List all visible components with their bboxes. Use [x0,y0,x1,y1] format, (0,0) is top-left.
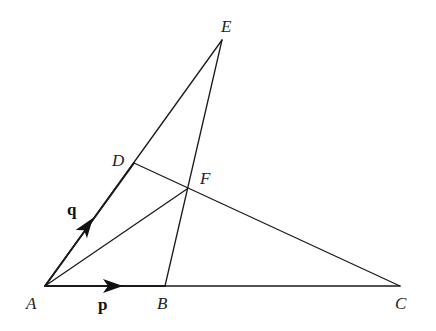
line-DC [134,163,400,286]
label-vector-p: p [98,295,107,314]
label-vector-q: q [67,200,77,219]
label-D: D [111,151,125,170]
label-A: A [25,294,37,313]
label-C: C [395,294,407,313]
line-EB [165,40,222,286]
label-F: F [199,169,211,188]
label-E: E [220,17,232,36]
geometry-diagram: A B C D E F p q [0,0,436,331]
label-B: B [157,294,168,313]
